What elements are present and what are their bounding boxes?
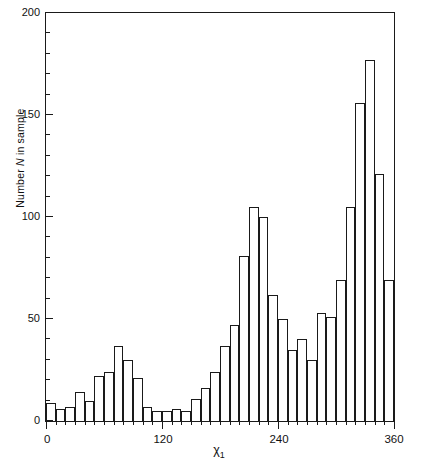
y-axis-tick-minor <box>46 73 50 74</box>
y-axis-tick-minor <box>46 236 50 237</box>
y-axis-tick-minor <box>46 53 50 54</box>
histogram-bar <box>191 399 201 421</box>
histogram-bar <box>278 319 288 421</box>
x-axis-tick-minor <box>249 421 250 425</box>
histogram-bar <box>181 411 191 421</box>
y-axis-tick-minor <box>46 257 50 258</box>
y-axis-tick-label: 50 <box>28 312 40 324</box>
y-axis-tick-minor <box>46 379 50 380</box>
x-axis-title-subscript: 1 <box>220 450 225 460</box>
plot-area: 050100150200 0120240360 <box>45 12 395 422</box>
x-axis-tick-minor <box>375 421 376 425</box>
histogram-bar <box>307 360 317 421</box>
histogram-bar <box>94 376 104 421</box>
x-axis-tick-minor <box>191 421 192 425</box>
y-axis-tick-minor <box>46 359 50 360</box>
y-axis-tick-label: 0 <box>34 414 40 426</box>
x-axis-tick-minor <box>123 421 124 425</box>
histogram-bar <box>346 207 356 421</box>
y-axis-tick-minor <box>46 196 50 197</box>
histogram-bar <box>365 60 375 421</box>
histogram-bar <box>133 378 143 421</box>
y-axis-tick-minor <box>46 94 50 95</box>
histogram-bar <box>114 346 124 421</box>
histogram-bar <box>336 280 346 421</box>
x-axis-tick-minor <box>65 421 66 425</box>
y-axis-tick-minor <box>46 400 50 401</box>
x-axis-tick-minor <box>143 421 144 425</box>
x-axis-tick-minor <box>133 421 134 425</box>
x-axis-tick-minor <box>326 421 327 425</box>
x-axis-tick-minor <box>220 421 221 425</box>
x-axis-tick-minor <box>114 421 115 425</box>
histogram-bar <box>288 350 298 421</box>
y-axis-tick-minor <box>46 155 50 156</box>
histogram-bar <box>297 339 307 421</box>
x-axis-tick-minor <box>297 421 298 425</box>
x-axis-tick-minor <box>104 421 105 425</box>
histogram-bar <box>104 372 114 421</box>
y-axis-tick-major: 100 <box>46 216 53 217</box>
histogram-bar <box>123 360 133 421</box>
x-axis-tick-minor <box>75 421 76 425</box>
histogram-bar <box>75 392 85 421</box>
x-axis-tick-minor <box>317 421 318 425</box>
y-axis-tick-label: 100 <box>22 210 40 222</box>
histogram-figure: Number N in sample 050100150200 01202403… <box>0 0 425 468</box>
histogram-bar <box>201 388 211 421</box>
histogram-bar <box>384 280 394 421</box>
x-axis-tick-minor <box>346 421 347 425</box>
x-axis-tick-minor <box>172 421 173 425</box>
x-axis-tick-minor <box>152 421 153 425</box>
x-axis-tick-minor <box>307 421 308 425</box>
x-axis-tick-major: 240 <box>278 421 279 429</box>
histogram-bar <box>317 313 327 421</box>
histogram-bar <box>239 256 249 421</box>
x-axis-tick-minor <box>56 421 57 425</box>
x-axis-tick-major: 360 <box>394 421 395 429</box>
histogram-bar <box>143 407 153 421</box>
histogram-bar <box>46 403 56 421</box>
histogram-bar <box>162 411 172 421</box>
x-axis-tick-minor <box>355 421 356 425</box>
histogram-bar <box>249 207 259 421</box>
histogram-bar <box>172 409 182 421</box>
x-axis-tick-minor <box>201 421 202 425</box>
y-axis-tick-minor <box>46 298 50 299</box>
histogram-bar <box>230 325 240 421</box>
x-axis-tick-minor <box>336 421 337 425</box>
y-axis-tick-major: 50 <box>46 318 53 319</box>
y-axis-tick-minor <box>46 338 50 339</box>
x-axis-tick-major: 0 <box>46 421 47 429</box>
histogram-bar <box>375 174 385 421</box>
histogram-bar <box>268 295 278 421</box>
y-axis-tick-major: 0 <box>46 420 53 421</box>
x-axis-tick-minor <box>365 421 366 425</box>
x-axis-tick-minor <box>288 421 289 425</box>
x-axis-tick-minor <box>181 421 182 425</box>
x-axis-tick-minor <box>230 421 231 425</box>
y-axis-tick-minor <box>46 175 50 176</box>
x-axis-tick-minor <box>210 421 211 425</box>
y-axis-tick-major: 200 <box>46 12 53 13</box>
y-axis-title-prefix: Number <box>14 166 26 208</box>
histogram-bars <box>46 13 394 421</box>
x-axis-tick-minor <box>259 421 260 425</box>
x-axis-title: χ1 <box>45 443 393 460</box>
y-axis-tick-label: 150 <box>22 108 40 120</box>
histogram-bar <box>56 409 66 421</box>
x-axis-tick-minor <box>94 421 95 425</box>
y-axis-title-symbol: N <box>14 158 26 166</box>
x-axis-tick-major: 120 <box>162 421 163 429</box>
x-axis-tick-minor <box>384 421 385 425</box>
histogram-bar <box>259 217 269 421</box>
histogram-bar <box>210 372 220 421</box>
y-axis-tick-label: 200 <box>22 6 40 18</box>
histogram-bar <box>220 346 230 421</box>
histogram-bar <box>85 401 95 421</box>
histogram-bar <box>152 411 162 421</box>
histogram-bar <box>355 103 365 421</box>
y-axis-tick-minor <box>46 277 50 278</box>
y-axis-tick-major: 150 <box>46 114 53 115</box>
y-axis-tick-minor <box>46 32 50 33</box>
